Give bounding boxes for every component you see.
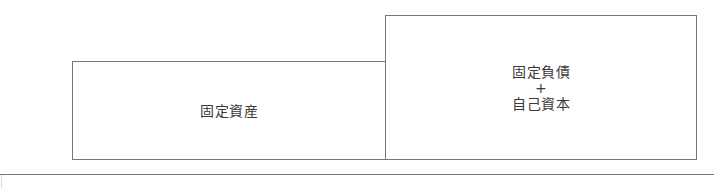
plus-operator: +	[512, 80, 570, 96]
equity-text: 自己資本	[512, 96, 570, 112]
baseline-tick	[1, 175, 2, 188]
fixed-liabilities-equity-box: 固定負債 + 自己資本	[385, 15, 697, 160]
fixed-liabilities-equity-label: 固定負債 + 自己資本	[512, 64, 570, 112]
fixed-assets-box: 固定資産	[72, 61, 386, 160]
fixed-liabilities-text: 固定負債	[512, 64, 570, 80]
fixed-assets-label: 固定資産	[200, 103, 258, 119]
baseline-divider	[0, 174, 714, 175]
